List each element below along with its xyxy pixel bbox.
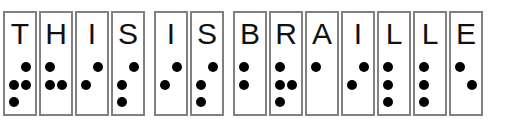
braille-dot-grid [310,59,334,111]
cell-letter: L [415,19,445,49]
braille-cell: E [449,11,483,116]
braille-cell: L [377,11,411,116]
braille-dot-filled [81,80,91,90]
braille-dot-empty [311,80,321,90]
braille-dot-empty [431,62,441,72]
braille-dot-filled [419,80,429,90]
braille-dot-filled [160,80,170,90]
braille-dot-empty [311,97,321,107]
braille-dot-grid [418,59,442,111]
braille-dot-filled [275,62,285,72]
braille-dot-filled [21,62,31,72]
braille-dot-filled [275,97,285,107]
braille-dot-empty [172,97,182,107]
braille-dot-empty [117,62,127,72]
cell-letter: S [192,19,222,49]
braille-cell: I [75,11,109,116]
braille-dot-empty [93,80,103,90]
braille-dot-grid [238,59,262,111]
braille-cell: R [269,11,303,116]
cell-letter: I [343,19,373,49]
braille-dot-grid [116,59,140,111]
cell-letter: I [156,19,186,49]
braille-dot-empty [196,62,206,72]
braille-word: IS [154,11,224,116]
braille-dot-filled [275,80,285,90]
braille-cell: S [190,11,224,116]
cell-letter: T [5,19,35,49]
braille-dot-filled [383,97,393,107]
cell-letter: A [307,19,337,49]
braille-dot-filled [93,62,103,72]
braille-dot-filled [311,62,321,72]
cell-letter: H [41,19,71,49]
braille-cell: B [233,11,267,116]
braille-dot-empty [208,97,218,107]
braille-dot-grid [8,59,32,111]
braille-dot-empty [9,62,19,72]
braille-dot-filled [359,62,369,72]
braille-cell: S [111,11,145,116]
braille-dot-filled [287,80,297,90]
braille-dot-filled [117,80,127,90]
cell-letter: L [379,19,409,49]
braille-dot-filled [419,62,429,72]
braille-dot-filled [117,97,127,107]
braille-cell: I [341,11,375,116]
braille-dot-empty [239,97,249,107]
braille-dot-filled [45,62,55,72]
braille-dot-filled [9,80,19,90]
braille-dot-empty [251,80,261,90]
braille-dot-empty [129,80,139,90]
braille-dot-empty [455,80,465,90]
braille-dot-filled [383,62,393,72]
cell-letter: B [235,19,265,49]
braille-dot-empty [251,62,261,72]
cell-letter: R [271,19,301,49]
braille-dot-empty [467,62,477,72]
braille-word: THIS [3,11,145,116]
braille-dot-empty [395,62,405,72]
braille-dot-empty [359,80,369,90]
braille-dot-empty [208,80,218,90]
braille-dot-empty [431,97,441,107]
braille-dot-grid [80,59,104,111]
braille-dot-empty [160,97,170,107]
braille-cell: I [154,11,188,116]
braille-dot-empty [395,97,405,107]
braille-dot-filled [172,62,182,72]
braille-dot-grid [159,59,183,111]
braille-dot-grid [44,59,68,111]
braille-dot-filled [239,80,249,90]
braille-dot-empty [359,97,369,107]
braille-dot-empty [455,97,465,107]
braille-dot-filled [196,97,206,107]
braille-dot-grid [346,59,370,111]
braille-dot-filled [196,80,206,90]
braille-dot-grid [454,59,478,111]
braille-dot-filled [9,97,19,107]
braille-dot-empty [57,97,67,107]
braille-dot-empty [287,97,297,107]
braille-dot-filled [129,62,139,72]
cell-letter: E [451,19,481,49]
braille-dot-empty [57,62,67,72]
braille-dot-empty [251,97,261,107]
braille-cell: H [39,11,73,116]
braille-dot-empty [93,97,103,107]
braille-cell: T [3,11,37,116]
braille-dot-grid [274,59,298,111]
braille-dot-empty [323,62,333,72]
braille-dot-filled [57,80,67,90]
braille-dot-grid [195,59,219,111]
braille-dot-empty [160,62,170,72]
braille-dot-filled [455,62,465,72]
braille-dot-filled [467,80,477,90]
braille-dot-empty [347,62,357,72]
braille-dot-empty [129,97,139,107]
braille-dot-empty [395,80,405,90]
braille-dot-filled [383,80,393,90]
braille-dot-empty [172,80,182,90]
braille-dot-empty [81,97,91,107]
braille-dot-empty [467,97,477,107]
